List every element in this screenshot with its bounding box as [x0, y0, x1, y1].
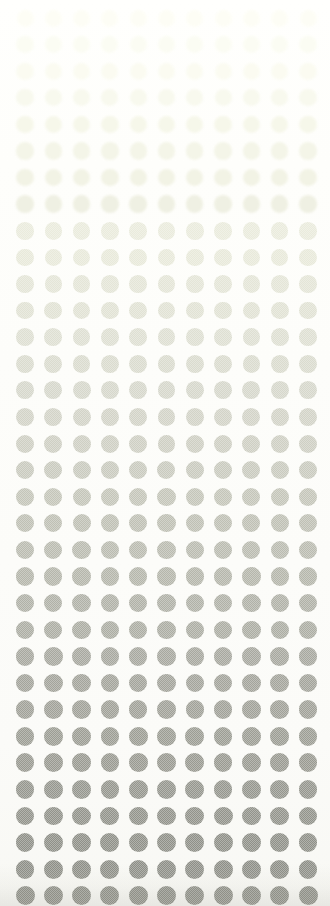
halftone-dot	[73, 514, 91, 532]
halftone-dot	[45, 116, 62, 133]
halftone-dot	[101, 195, 118, 212]
halftone-dot	[130, 89, 147, 106]
halftone-dot	[185, 780, 204, 799]
halftone-dot	[101, 381, 119, 399]
halftone-dot	[129, 647, 147, 665]
halftone-dot	[73, 10, 90, 27]
halftone-dot	[186, 461, 204, 479]
halftone-dot	[129, 302, 147, 320]
halftone-dot	[16, 195, 33, 212]
halftone-dot	[243, 142, 260, 159]
halftone-dot	[44, 381, 62, 399]
halftone-dot	[271, 222, 288, 239]
halftone-dot	[16, 833, 35, 852]
halftone-dot	[44, 435, 62, 453]
halftone-dot	[271, 302, 289, 320]
halftone-dot	[299, 488, 317, 506]
halftone-dot	[100, 860, 119, 879]
halftone-dot	[299, 89, 316, 106]
halftone-dot	[271, 355, 289, 373]
halftone-dot	[271, 10, 288, 27]
halftone-dot	[242, 435, 260, 453]
halftone-dot	[101, 541, 119, 559]
halftone-dot	[243, 116, 260, 133]
halftone-dot	[101, 355, 119, 373]
halftone-dot	[158, 36, 175, 53]
halftone-dot	[186, 355, 204, 373]
halftone-dot	[44, 833, 63, 852]
halftone-dot	[101, 328, 119, 346]
halftone-dot	[186, 674, 205, 693]
halftone-dot	[243, 355, 261, 373]
halftone-dot	[157, 567, 175, 585]
halftone-dot	[129, 461, 147, 479]
halftone-dot	[101, 116, 118, 133]
halftone-dot	[44, 700, 63, 719]
halftone-dot	[16, 514, 34, 532]
halftone-dot	[271, 621, 289, 639]
halftone-dot	[44, 355, 62, 373]
halftone-dot	[185, 753, 204, 772]
halftone-dot	[101, 700, 120, 719]
halftone-dot	[299, 328, 317, 346]
halftone-dot	[243, 195, 260, 212]
halftone-dot	[45, 63, 62, 80]
halftone-dot	[243, 222, 260, 239]
halftone-dot	[271, 116, 288, 133]
halftone-dot	[44, 328, 62, 346]
halftone-dot	[16, 541, 34, 559]
halftone-dot	[129, 195, 146, 212]
halftone-dot	[186, 594, 204, 612]
halftone-dot	[129, 780, 148, 799]
halftone-dot	[45, 169, 62, 186]
halftone-dot	[72, 886, 91, 905]
halftone-dot	[214, 514, 232, 532]
halftone-dot	[16, 302, 34, 320]
halftone-dot	[157, 488, 175, 506]
halftone-dot	[73, 435, 91, 453]
halftone-dot	[158, 63, 175, 80]
halftone-dot	[214, 567, 232, 585]
halftone-dot	[242, 807, 261, 826]
halftone-dot	[72, 833, 91, 852]
halftone-dot	[158, 116, 175, 133]
halftone-dot	[186, 541, 204, 559]
halftone-dot	[299, 302, 317, 320]
halftone-dot	[16, 461, 34, 479]
halftone-dot	[101, 36, 118, 53]
halftone-dot	[214, 727, 233, 746]
halftone-dot	[16, 381, 34, 399]
halftone-dot	[271, 514, 289, 532]
halftone-dot	[101, 488, 119, 506]
halftone-dot	[129, 753, 148, 772]
halftone-dot	[157, 753, 176, 772]
halftone-dot	[129, 249, 147, 267]
halftone-dot	[299, 222, 316, 239]
halftone-dot	[158, 355, 176, 373]
halftone-dot	[129, 621, 147, 639]
halftone-dot	[185, 727, 204, 746]
halftone-dot	[214, 594, 232, 612]
halftone-dot	[73, 488, 91, 506]
halftone-dot	[45, 10, 62, 27]
halftone-dot	[270, 647, 288, 665]
halftone-dot	[299, 514, 317, 532]
halftone-dot	[45, 142, 62, 159]
halftone-dot	[17, 10, 34, 27]
halftone-dot	[271, 567, 289, 585]
halftone-dot	[158, 142, 175, 159]
halftone-dot	[242, 780, 261, 799]
halftone-dot	[242, 567, 260, 585]
halftone-dot	[130, 63, 147, 80]
halftone-dot	[16, 89, 33, 106]
halftone-dot	[215, 10, 232, 27]
halftone-dot	[157, 727, 176, 746]
halftone-dot	[157, 700, 176, 719]
halftone-dot	[214, 621, 232, 639]
halftone-dot	[242, 514, 260, 532]
halftone-dot	[73, 63, 90, 80]
halftone-dot	[299, 833, 318, 852]
halftone-dot	[299, 142, 316, 159]
halftone-dot	[186, 567, 204, 585]
halftone-dot	[129, 488, 147, 506]
